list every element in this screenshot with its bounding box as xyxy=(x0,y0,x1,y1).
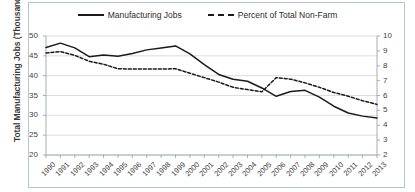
chart-series-lines xyxy=(46,43,377,118)
y-axis-right-label: 9 xyxy=(383,46,397,55)
y-axis-right-label: 4 xyxy=(383,120,397,129)
chart-gridlines xyxy=(46,36,377,155)
series-line-percent-total-non-farm xyxy=(46,52,377,105)
y-axis-left-label: 20 xyxy=(22,150,38,159)
y-axis-right-label: 7 xyxy=(383,76,397,85)
y-axis-left-label: 35 xyxy=(22,91,38,100)
y-axis-left-label: 25 xyxy=(22,130,38,139)
chart-container: Total Manufacturing Jobs (Thousands) Man… xyxy=(0,0,415,192)
y-axis-right-label: 3 xyxy=(383,135,397,144)
y-axis-left-label: 45 xyxy=(22,51,38,60)
y-axis-right-label: 10 xyxy=(383,31,397,40)
chart-tick-marks xyxy=(43,36,380,158)
y-axis-left-label: 50 xyxy=(22,31,38,40)
y-axis-left-label: 40 xyxy=(22,71,38,80)
y-axis-right-label: 5 xyxy=(383,105,397,114)
y-axis-left-label: 30 xyxy=(22,110,38,119)
y-axis-right-label: 6 xyxy=(383,91,397,100)
y-axis-right-label: 2 xyxy=(383,150,397,159)
y-axis-right-label: 8 xyxy=(383,61,397,70)
